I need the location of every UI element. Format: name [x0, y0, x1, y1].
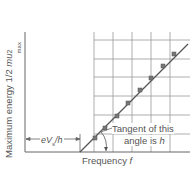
y-axis-label-text: Maximum energy 1/2 [3, 67, 14, 158]
y-axis-label-sub: max [16, 42, 22, 53]
annotation-line2-text: angle is [124, 135, 159, 146]
annotation-line1: Tangent of this [112, 123, 174, 134]
x-axis-label-var: f [130, 155, 133, 166]
y-axis-label: Maximum energy 1/2 mu2max [3, 0, 17, 158]
x-axis-label-text: Frequency [82, 155, 130, 166]
intercept-label: eVs/h [40, 135, 64, 147]
y-axis-label-var: mu [3, 53, 14, 66]
annotation-line2: angle is h [124, 135, 165, 146]
intercept-h: /h [55, 135, 63, 145]
annotation-line2-var: h [159, 135, 164, 146]
y-axis-label-sup: 2 [6, 50, 13, 54]
x-axis-label: Frequency f [82, 155, 132, 166]
